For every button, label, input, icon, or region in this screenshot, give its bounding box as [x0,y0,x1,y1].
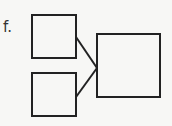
top-connector [76,37,97,68]
right-box [97,34,160,97]
top-left-box [32,15,76,58]
bottom-left-box [32,73,76,116]
box-diagram [0,0,172,126]
bottom-connector [76,68,97,97]
